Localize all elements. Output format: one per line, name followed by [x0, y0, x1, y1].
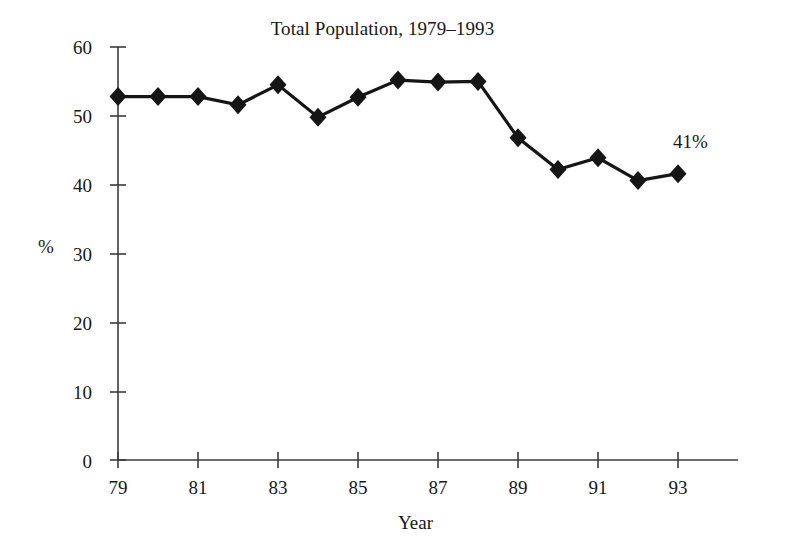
data-point-80 [150, 87, 167, 106]
data-point-85 [350, 88, 367, 107]
data-point-93 [670, 164, 687, 183]
data-point-82 [230, 95, 247, 114]
series-markers [110, 71, 687, 190]
data-point-87 [430, 73, 447, 92]
plot-svg [0, 0, 787, 560]
data-point-86 [390, 71, 407, 90]
data-series-group [110, 71, 687, 190]
data-point-91 [590, 148, 607, 167]
data-point-79 [110, 87, 127, 106]
data-point-81 [190, 87, 207, 106]
data-point-92 [630, 171, 647, 190]
chart-container: Total Population, 1979–1993 % Year 60 50… [0, 0, 787, 560]
